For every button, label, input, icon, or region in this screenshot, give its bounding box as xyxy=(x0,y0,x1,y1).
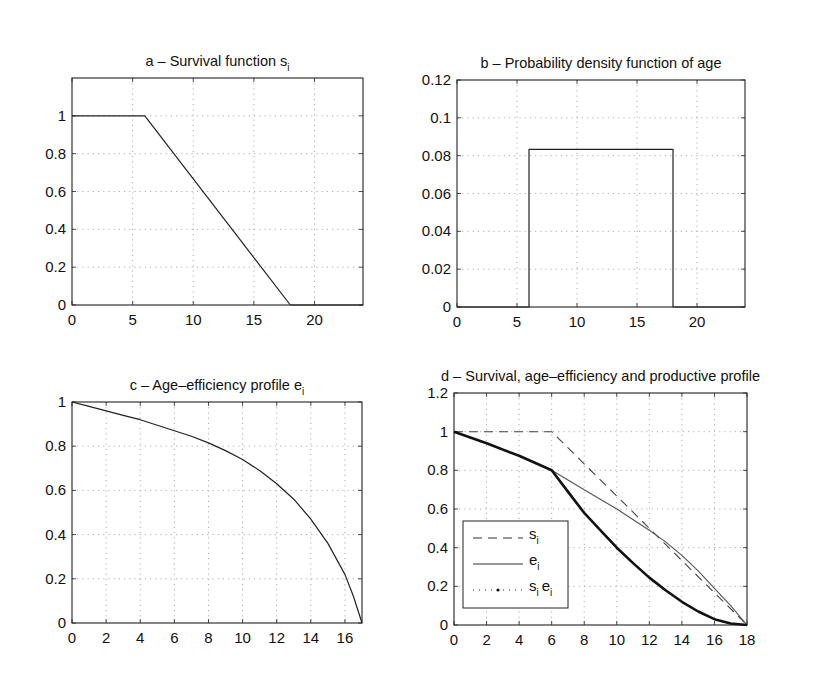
chart-a: 0510152000.20.40.60.81a – Survival funct… xyxy=(45,53,363,328)
x-tick-label: 4 xyxy=(136,629,144,646)
y-tick-label: 0.6 xyxy=(45,183,66,200)
x-tick-label: 10 xyxy=(185,311,202,328)
y-tick-label: 1.2 xyxy=(427,384,448,401)
x-tick-label: 2 xyxy=(482,631,490,648)
x-tick-label: 12 xyxy=(268,629,285,646)
y-tick-label: 1 xyxy=(58,393,66,410)
y-tick-label: 0.04 xyxy=(422,222,451,239)
x-tick-label: 16 xyxy=(337,629,354,646)
y-tick-label: 0 xyxy=(58,614,66,631)
x-tick-label: 15 xyxy=(629,313,646,330)
chart-title: a – Survival function si xyxy=(145,53,289,73)
x-tick-label: 12 xyxy=(641,631,658,648)
y-tick-label: 0.06 xyxy=(422,185,451,202)
x-tick-label: 0 xyxy=(453,313,461,330)
x-tick-label: 15 xyxy=(246,311,263,328)
y-tick-label: 0.6 xyxy=(427,500,448,517)
x-tick-label: 2 xyxy=(102,629,110,646)
y-tick-label: 0.12 xyxy=(422,71,451,88)
axes-frame xyxy=(72,78,363,305)
y-tick-label: 0 xyxy=(443,298,451,315)
chart-title: c – Age–efficiency profile ei xyxy=(130,377,304,397)
x-tick-label: 14 xyxy=(674,631,691,648)
y-tick-label: 0.4 xyxy=(427,539,448,556)
x-tick-label: 8 xyxy=(204,629,212,646)
x-tick-label: 20 xyxy=(689,313,706,330)
y-tick-label: 0.2 xyxy=(45,258,66,275)
y-tick-label: 0.1 xyxy=(430,109,451,126)
y-tick-label: 1 xyxy=(58,107,66,124)
y-tick-label: 0.4 xyxy=(45,526,66,543)
y-tick-label: 0 xyxy=(58,296,66,313)
x-tick-label: 6 xyxy=(547,631,555,648)
x-tick-label: 5 xyxy=(513,313,521,330)
y-tick-label: 0.02 xyxy=(422,260,451,277)
y-tick-label: 1 xyxy=(440,423,448,440)
x-tick-label: 14 xyxy=(302,629,319,646)
figure: 0510152000.20.40.60.81a – Survival funct… xyxy=(0,0,832,694)
y-tick-label: 0.8 xyxy=(45,437,66,454)
x-tick-label: 5 xyxy=(128,311,136,328)
chart-b: 0510152000.020.040.060.080.10.12b – Prob… xyxy=(422,55,745,330)
chart-d: 02468101214161800.20.40.60.811.2d – Surv… xyxy=(427,368,760,648)
x-tick-label: 10 xyxy=(608,631,625,648)
chart-c: 024681012141600.20.40.60.81c – Age–effic… xyxy=(45,377,362,646)
y-tick-label: 0.6 xyxy=(45,481,66,498)
x-tick-label: 0 xyxy=(450,631,458,648)
axes-frame xyxy=(72,402,362,623)
x-tick-label: 6 xyxy=(170,629,178,646)
series-s-i xyxy=(72,116,363,305)
x-tick-label: 16 xyxy=(706,631,723,648)
y-tick-label: 0.2 xyxy=(427,577,448,594)
y-tick-label: 0 xyxy=(440,616,448,633)
x-tick-label: 0 xyxy=(68,311,76,328)
y-tick-label: 0.08 xyxy=(422,147,451,164)
x-tick-label: 0 xyxy=(68,629,76,646)
series-pdf xyxy=(457,149,745,307)
x-tick-label: 18 xyxy=(739,631,756,648)
chart-title: b – Probability density function of age xyxy=(480,55,721,71)
y-tick-label: 0.8 xyxy=(427,461,448,478)
x-tick-label: 8 xyxy=(580,631,588,648)
legend: sieisiei xyxy=(463,521,568,608)
x-tick-label: 10 xyxy=(234,629,251,646)
chart-title: d – Survival, age–efficiency and product… xyxy=(441,368,760,384)
x-tick-label: 20 xyxy=(306,311,323,328)
x-tick-label: 10 xyxy=(569,313,586,330)
y-tick-label: 0.8 xyxy=(45,145,66,162)
y-tick-label: 0.2 xyxy=(45,570,66,587)
x-tick-label: 4 xyxy=(515,631,523,648)
series-e-i xyxy=(72,402,362,623)
y-tick-label: 0.4 xyxy=(45,220,66,237)
